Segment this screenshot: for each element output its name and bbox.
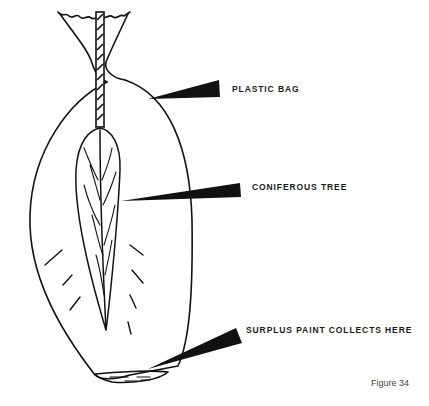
- bag-neck-right: [106, 14, 128, 80]
- tree-stem: [96, 12, 104, 127]
- figure-caption: Figure 34: [371, 378, 409, 388]
- surplus-paint-pointer: [148, 328, 242, 369]
- label-coniferous-tree: CONIFEROUS TREE: [252, 182, 347, 192]
- coniferous-tree-pointer: [121, 183, 241, 201]
- label-surplus-paint: SURPLUS PAINT COLLECTS HERE: [246, 325, 412, 335]
- plastic-bag-outline: [30, 80, 192, 379]
- bag-top-wavy-edge: [58, 12, 130, 19]
- plastic-bag-pointer: [148, 80, 220, 99]
- label-plastic-bag: PLASTIC BAG: [232, 84, 300, 94]
- diagram-drawing: [0, 0, 429, 406]
- coniferous-tree-outline: [76, 128, 120, 330]
- tree-center-line: [100, 130, 106, 330]
- figure-34-diagram: PLASTIC BAG CONIFEROUS TREE SURPLUS PAIN…: [0, 0, 429, 406]
